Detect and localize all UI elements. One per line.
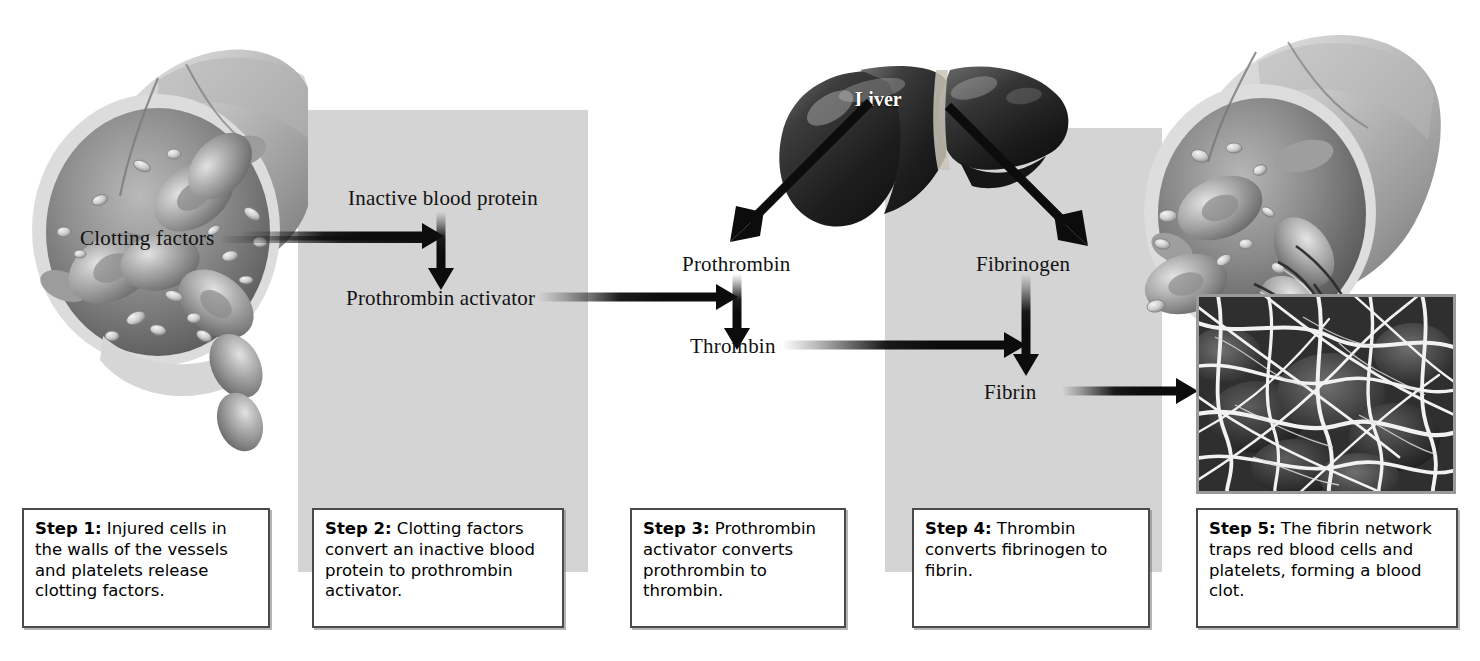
label-thrombin: Thrombin [690,334,776,359]
step-caption-1: Step 1: Injured cells in the walls of th… [22,508,270,628]
label-fibrin: Fibrin [984,380,1037,405]
label-clotting-factors: Clotting factors [80,226,214,251]
step-caption-5: Step 5: The fibrin network traps red blo… [1196,508,1458,628]
step-1-lead: Step 1: [35,519,102,538]
arrow-fibrinogen-to-fibrin [1012,274,1040,376]
arrow-liver-to-fibrinogen [940,100,1100,250]
label-inactive-blood-protein: Inactive blood protein [348,186,538,211]
arrow-activator-to-prothrombin-conversion [538,283,738,311]
arrow-inactive-protein-to-prothrombin-activator [427,212,455,290]
clotting-cascade-figure: Clotting factors Inactive blood protein … [0,0,1480,661]
step-caption-3: Step 3: Prothrombin activator converts p… [630,508,846,628]
panel-step2 [298,110,588,572]
step-caption-4: Step 4: Thrombin converts fibrinogen to … [912,508,1150,628]
fibrin-network-micrograph [1196,294,1456,494]
step-caption-2: Step 2: Clotting factors convert an inac… [312,508,564,628]
step-4-lead: Step 4: [925,519,992,538]
arrow-liver-to-prothrombin [720,96,880,246]
step-2-lead: Step 2: [325,519,392,538]
label-prothrombin-activator: Prothrombin activator [346,286,535,311]
step-5-lead: Step 5: [1209,519,1276,538]
step-3-lead: Step 3: [643,519,710,538]
arrow-thrombin-to-fibrinogen-conversion [782,331,1026,359]
arrow-clotting-factors-to-activation [240,222,444,250]
